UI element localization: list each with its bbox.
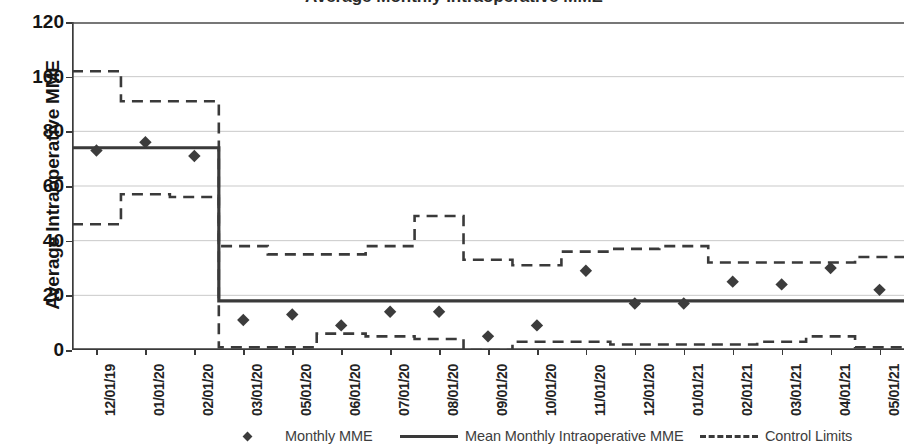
x-tick-mark bbox=[880, 350, 882, 355]
legend-label: Mean Monthly Intraoperative MME bbox=[465, 428, 684, 444]
legend-item[interactable]: Monthly MME bbox=[220, 424, 373, 447]
x-tick-mark bbox=[194, 350, 196, 355]
x-tick-mark bbox=[488, 350, 490, 355]
y-tick-label: 0 bbox=[20, 340, 64, 359]
y-tick-label: 20 bbox=[20, 285, 64, 304]
y-tick-label: 80 bbox=[20, 121, 64, 140]
x-tick-label: 06/01/20 bbox=[347, 346, 363, 416]
x-tick-mark bbox=[292, 350, 294, 355]
x-tick-label: 07/01/20 bbox=[396, 346, 412, 416]
x-tick-label: 12/01/19 bbox=[102, 346, 118, 416]
solid-line-icon bbox=[400, 430, 458, 442]
y-tick-label: 100 bbox=[20, 67, 64, 86]
x-tick-label: 05/01/20 bbox=[298, 346, 314, 416]
x-tick-mark bbox=[684, 350, 686, 355]
x-tick-label: 09/01/20 bbox=[494, 346, 510, 416]
x-tick-mark bbox=[733, 350, 735, 355]
data-point-marker[interactable] bbox=[286, 308, 298, 320]
data-point-marker[interactable] bbox=[90, 144, 102, 156]
x-tick-mark bbox=[341, 350, 343, 355]
data-point-marker[interactable] bbox=[188, 150, 200, 162]
x-tick-label: 01/01/21 bbox=[690, 346, 706, 416]
data-point-marker[interactable] bbox=[580, 265, 592, 277]
x-tick-mark bbox=[537, 350, 539, 355]
x-tick-label: 03/01/20 bbox=[249, 346, 265, 416]
data-point-marker[interactable] bbox=[727, 275, 739, 287]
x-tick-label: 02/01/20 bbox=[200, 346, 216, 416]
x-tick-mark bbox=[782, 350, 784, 355]
data-point-marker[interactable] bbox=[873, 284, 885, 296]
data-point-marker[interactable] bbox=[433, 306, 445, 318]
y-tick-label: 40 bbox=[20, 231, 64, 250]
x-tick-mark bbox=[145, 350, 147, 355]
control-limit-lower bbox=[72, 194, 904, 350]
spc-chart: Average Monthly Intraoperative MME Avera… bbox=[0, 0, 908, 447]
plot-area bbox=[72, 22, 904, 350]
y-tick-label: 60 bbox=[20, 176, 64, 195]
data-point-marker[interactable] bbox=[775, 278, 787, 290]
chart-legend: Monthly MMEMean Monthly Intraoperative M… bbox=[0, 424, 908, 447]
x-tick-mark bbox=[243, 350, 245, 355]
mean-line bbox=[72, 148, 904, 301]
diamond-marker-icon bbox=[220, 430, 278, 442]
data-point-marker[interactable] bbox=[531, 319, 543, 331]
legend-label: Monthly MME bbox=[285, 428, 373, 444]
x-tick-mark bbox=[439, 350, 441, 355]
x-tick-label: 12/01/20 bbox=[641, 346, 657, 416]
legend-item[interactable]: Mean Monthly Intraoperative MME bbox=[400, 424, 684, 447]
x-tick-label: 02/01/21 bbox=[739, 346, 755, 416]
control-limit-upper bbox=[72, 71, 904, 265]
x-tick-mark bbox=[96, 350, 98, 355]
data-point-marker[interactable] bbox=[237, 314, 249, 326]
x-tick-label: 11/01/20 bbox=[592, 346, 608, 416]
x-tick-mark bbox=[831, 350, 833, 355]
data-point-marker[interactable] bbox=[482, 330, 494, 342]
data-point-marker[interactable] bbox=[335, 319, 347, 331]
dashed-line-icon bbox=[700, 430, 758, 442]
y-tick-label: 120 bbox=[20, 12, 64, 31]
x-tick-label: 08/01/20 bbox=[445, 346, 461, 416]
data-point-marker[interactable] bbox=[678, 297, 690, 309]
legend-label: Control Limits bbox=[765, 428, 852, 444]
x-tick-label: 01/01/20 bbox=[151, 346, 167, 416]
legend-item[interactable]: Control Limits bbox=[700, 424, 852, 447]
chart-title: Average Monthly Intraoperative MME bbox=[0, 0, 908, 5]
x-tick-label: 04/01/21 bbox=[837, 346, 853, 416]
plot-svg bbox=[72, 22, 904, 350]
x-axis-ticks: 12/01/1901/01/2002/01/2003/01/2005/01/20… bbox=[72, 350, 904, 420]
x-tick-mark bbox=[635, 350, 637, 355]
y-axis-ticks: 020406080100120 bbox=[0, 0, 64, 447]
data-point-marker[interactable] bbox=[384, 306, 396, 318]
data-point-marker[interactable] bbox=[629, 297, 641, 309]
x-tick-label: 03/01/21 bbox=[788, 346, 804, 416]
x-tick-label: 10/01/20 bbox=[543, 346, 559, 416]
x-tick-mark bbox=[586, 350, 588, 355]
x-tick-mark bbox=[390, 350, 392, 355]
x-tick-label: 05/01/21 bbox=[886, 346, 902, 416]
